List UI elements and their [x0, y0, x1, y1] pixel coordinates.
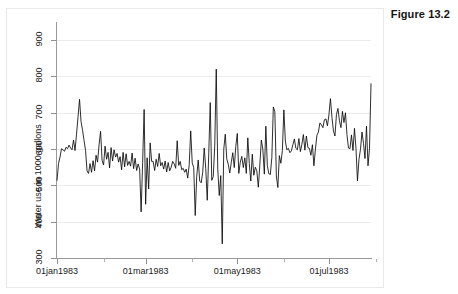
- figure-root: Figure 13.2 Water use in 1000 gallons 30…: [0, 0, 458, 294]
- x-tick-label-01jul1983: 01jul1983: [309, 266, 348, 276]
- y-tick-500: [51, 185, 56, 186]
- y-tick-label-text: 500: [33, 177, 43, 192]
- y-tick-label-text: 400: [33, 213, 43, 228]
- x-tick-minor: [284, 259, 285, 262]
- x-tick-minor: [376, 259, 377, 262]
- x-tick-label-01may1983: 01may1983: [214, 266, 261, 276]
- plot-wrap: Water use in 1000 gallons 30040050060070…: [0, 0, 458, 294]
- y-tick-300: [51, 258, 56, 259]
- y-tick-label-text: 300: [33, 249, 43, 264]
- y-axis-line: [56, 22, 57, 259]
- y-tick-700: [51, 113, 56, 114]
- y-tick-label-text: 800: [33, 68, 43, 83]
- y-tick-900: [51, 40, 56, 41]
- y-tick-label-700: 700: [0, 107, 46, 117]
- gridline-y-500: [57, 185, 371, 186]
- y-tick-label-600: 600: [0, 143, 46, 153]
- gridline-y-800: [57, 76, 371, 77]
- x-tick-label-01jan1983: 01jan1983: [36, 266, 78, 276]
- y-tick-600: [51, 149, 56, 150]
- y-tick-label-400: 400: [0, 216, 46, 226]
- x-tick-minor: [104, 259, 105, 262]
- y-tick-label-900: 900: [0, 34, 46, 44]
- y-tick-label-800: 800: [0, 70, 46, 80]
- gridline-y-900: [57, 40, 371, 41]
- y-tick-label-text: 900: [33, 32, 43, 47]
- y-tick-label-text: 600: [33, 141, 43, 156]
- x-tick-label-01mar1983: 01mar1983: [123, 266, 169, 276]
- y-tick-label-500: 500: [0, 179, 46, 189]
- y-tick-label-300: 300: [0, 252, 46, 262]
- plot-area: [57, 22, 371, 258]
- x-tick-01may1983: [237, 259, 238, 264]
- y-tick-400: [51, 222, 56, 223]
- gridline-y-400: [57, 222, 371, 223]
- y-tick-label-text: 700: [33, 104, 43, 119]
- x-tick-minor: [192, 259, 193, 262]
- y-tick-800: [51, 76, 56, 77]
- x-tick-01jan1983: [57, 259, 58, 264]
- x-tick-01jul1983: [329, 259, 330, 264]
- x-tick-01mar1983: [146, 259, 147, 264]
- gridline-y-700: [57, 113, 371, 114]
- gridline-y-600: [57, 149, 371, 150]
